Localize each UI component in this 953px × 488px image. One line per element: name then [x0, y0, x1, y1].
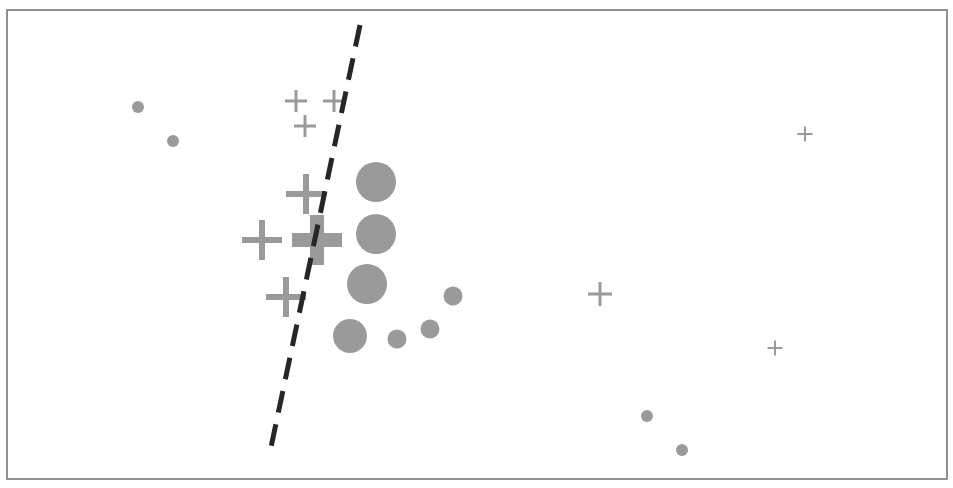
circle-marker: [388, 330, 407, 349]
circle-marker: [641, 410, 653, 422]
scatter-diagram: [0, 0, 953, 488]
circle-marker: [676, 444, 688, 456]
circle-marker: [356, 162, 396, 202]
circle-marker: [333, 319, 367, 353]
circle-marker: [444, 287, 463, 306]
circle-marker: [356, 214, 396, 254]
circle-marker: [347, 264, 387, 304]
circle-marker: [132, 101, 144, 113]
circle-marker: [167, 135, 179, 147]
circle-marker: [421, 320, 440, 339]
diagram-frame: [7, 10, 947, 479]
